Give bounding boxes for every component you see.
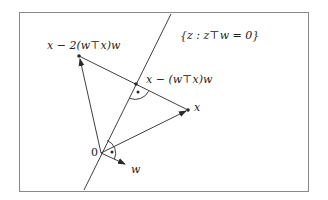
point-reflection: [77, 54, 81, 58]
vector-reflection-arrow: [80, 59, 101, 153]
diagram-canvas: [0, 0, 328, 200]
right-angle-dot-projection: [137, 91, 140, 94]
vector-w-arrow: [101, 153, 125, 164]
origin-label: 0: [91, 147, 98, 158]
x-label: x: [194, 102, 200, 113]
right-angle-dot-origin: [111, 151, 114, 154]
point-x: [186, 108, 190, 112]
reflection-label: x − 2(w⊤x)w: [47, 40, 120, 51]
hyperplane-label: {z : z⊤w = 0}: [180, 30, 259, 41]
reflection-diagram: {z : z⊤w = 0} x − 2(w⊤x)w x − (w⊤x)w x 0…: [0, 0, 328, 200]
point-projection: [134, 82, 138, 86]
projection-label: x − (w⊤x)w: [146, 74, 212, 85]
w-label: w: [131, 164, 140, 175]
